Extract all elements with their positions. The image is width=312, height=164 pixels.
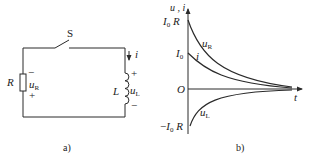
tick-negI0R: −I0 R	[160, 121, 183, 136]
inductor-label: L	[113, 86, 119, 97]
uR-top-sign: −	[28, 67, 34, 78]
tick-I0: I0	[176, 48, 183, 63]
tick-I0R: I0 R	[163, 16, 180, 31]
caption-b: b)	[236, 142, 244, 153]
curve-uR-label: uR	[202, 38, 212, 53]
curve-i-label: i	[196, 51, 199, 62]
y-axis-label: u , i	[170, 2, 185, 13]
origin-label: O	[177, 84, 185, 95]
current-label: i	[135, 49, 138, 60]
uR-bottom-sign: +	[29, 90, 35, 101]
switch-label: S	[67, 28, 73, 39]
switch-blade	[55, 40, 69, 48]
uL-label: uL	[130, 85, 140, 100]
figure: S R − uR + i + L uL − a) u , i I0 R I0 O…	[0, 0, 312, 164]
diagram-lines	[0, 0, 312, 164]
resistor-symbol	[20, 74, 26, 91]
caption-a: a)	[63, 142, 71, 153]
inductor-symbol	[125, 73, 129, 104]
uL-bottom-sign: −	[131, 100, 137, 111]
uL-top-sign: +	[131, 68, 137, 79]
curve-i	[188, 53, 292, 88]
curve-uL-label: uL	[200, 107, 210, 122]
resistor-label: R	[7, 77, 14, 88]
x-axis-label: t	[294, 92, 297, 103]
curve-uR	[188, 20, 292, 87]
